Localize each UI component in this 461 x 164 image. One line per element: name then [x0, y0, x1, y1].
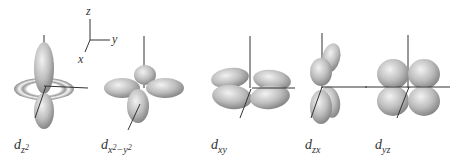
- lobe-lower-right: [408, 86, 440, 116]
- orbital-dyz: [365, 35, 450, 118]
- orbital-dx2-y2: [104, 36, 184, 130]
- y-axis-label: y: [112, 32, 117, 47]
- label-dyz: dyz: [375, 137, 390, 155]
- z-axis-label: z: [86, 4, 91, 19]
- axes-legend: [85, 19, 110, 52]
- lobe-upper-front: [310, 58, 332, 86]
- lobe-lower-front: [310, 90, 332, 124]
- lobe-upper-right: [408, 59, 440, 89]
- label-dz2: dz2: [14, 137, 29, 155]
- x-axis-label: x: [78, 52, 83, 67]
- lobe-upper-left: [377, 59, 409, 89]
- label-dzx: dzx: [305, 137, 320, 155]
- lobe-lower-left: [211, 82, 254, 111]
- lobe-right: [146, 78, 184, 98]
- orbital-dxy: [210, 36, 295, 118]
- lobe-lower-left: [377, 86, 409, 116]
- label-dxy: dxy: [211, 137, 227, 155]
- orbital-dzx: [310, 33, 367, 124]
- label-dx2-y2: dx2−y2: [101, 137, 132, 155]
- orbital-diagram: [0, 0, 461, 164]
- lobe-front: [127, 89, 149, 123]
- x-axis-legend: [85, 40, 90, 52]
- orbital-dz2: [14, 35, 88, 129]
